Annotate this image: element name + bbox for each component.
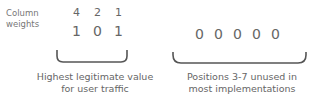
left-caption: Highest legitimate value for user traffi… — [20, 71, 170, 95]
right-caption: Positions 3-7 unused in most implementat… — [172, 71, 312, 95]
left-bracket — [57, 50, 127, 62]
right-caption-line1: Positions 3-7 unused in — [172, 71, 312, 83]
right-caption-line2: most implementations — [172, 83, 312, 95]
right-bracket — [173, 52, 306, 63]
left-caption-line1: Highest legitimate value — [20, 71, 170, 83]
left-caption-line2: for user traffic — [20, 83, 170, 95]
